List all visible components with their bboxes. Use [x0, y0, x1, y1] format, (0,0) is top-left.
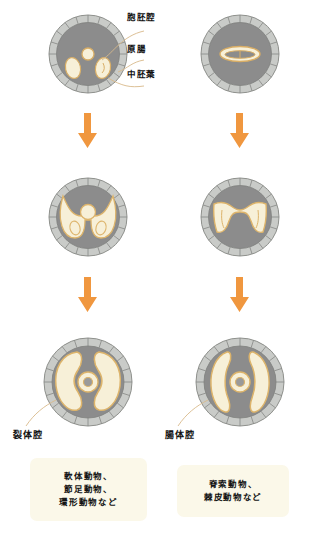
arrow-left-1 — [76, 113, 99, 149]
embryo-left-row2 — [47, 176, 129, 258]
caption-box-protostome: 軟体動物、 節足動物、 環形動物など — [30, 458, 147, 521]
archenteron-center — [81, 205, 96, 220]
embryo-right-row1 — [199, 13, 281, 95]
gut-ring-inner — [236, 378, 245, 387]
embryo-left-row3 — [42, 336, 134, 428]
arrow-right-1 — [228, 113, 251, 149]
embryo-right-row1-svg — [199, 13, 281, 95]
caption-line: 脊索動物、 — [209, 478, 258, 491]
label-schizocoel: 裂体腔 — [13, 428, 42, 441]
caption-line: 環形動物など — [59, 496, 117, 509]
label-enterocoel: 腸体腔 — [165, 428, 194, 441]
diagram-canvas: 胞胚腔 原腸 中胚葉 — [0, 0, 310, 544]
embryo-left-row2-svg — [47, 176, 129, 258]
caption-line: 棘皮動物など — [204, 491, 262, 504]
caption-box-deuterostome: 脊索動物、 棘皮動物など — [177, 465, 289, 517]
label-archenteron: 原腸 — [127, 45, 146, 54]
embryo-left-row1-svg — [47, 13, 129, 95]
arrow-right-2 — [228, 277, 251, 313]
gut-ring-inner — [84, 378, 93, 387]
archenteron-blob — [82, 48, 94, 60]
embryo-right-row2 — [199, 176, 281, 258]
embryo-right-row3 — [194, 336, 286, 428]
label-mesoderm: 中胚葉 — [127, 70, 156, 79]
arrow-left-2 — [76, 277, 99, 313]
caption-line: 軟体動物、 — [64, 470, 113, 483]
label-blastocoel: 胞胚腔 — [127, 13, 156, 22]
embryo-left-row1 — [47, 13, 129, 95]
embryo-right-row3-svg — [194, 336, 286, 428]
embryo-left-row3-svg — [42, 336, 134, 428]
embryo-right-row2-svg — [199, 176, 281, 258]
caption-line: 節足動物、 — [64, 483, 113, 496]
